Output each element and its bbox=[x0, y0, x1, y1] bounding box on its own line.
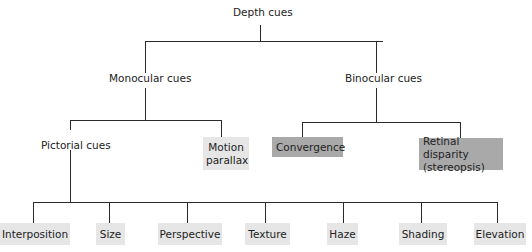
node-motion-parallax: Motion parallax bbox=[203, 137, 249, 170]
node-label: Texture bbox=[248, 228, 286, 241]
connector bbox=[302, 122, 303, 137]
connector bbox=[343, 202, 344, 223]
depth-cues-tree-diagram: Depth cues Monocular cues Binocular cues… bbox=[0, 0, 532, 252]
node-label: Perspective bbox=[160, 228, 221, 241]
node-retinal-disparity: Retinal disparity (stereopsis) bbox=[419, 138, 503, 170]
connector bbox=[70, 120, 71, 130]
connector bbox=[302, 122, 460, 123]
node-texture: Texture bbox=[245, 223, 290, 245]
node-haze: Haze bbox=[327, 223, 358, 245]
connector bbox=[70, 150, 71, 202]
node-label: Size bbox=[100, 228, 122, 241]
node-label: Haze bbox=[329, 228, 355, 241]
connector bbox=[70, 120, 222, 121]
node-pictorial-cues: Pictorial cues bbox=[41, 139, 111, 151]
node-interposition: Interposition bbox=[0, 223, 70, 245]
node-label: Shading bbox=[402, 228, 445, 241]
node-label: Motion parallax bbox=[206, 141, 246, 167]
connector bbox=[376, 41, 377, 73]
connector bbox=[421, 202, 422, 223]
node-monocular-cues: Monocular cues bbox=[109, 72, 191, 84]
connector bbox=[497, 202, 498, 223]
connector bbox=[145, 41, 383, 42]
node-convergence: Convergence bbox=[272, 137, 343, 157]
root-node-depth-cues: Depth cues bbox=[233, 6, 293, 18]
node-label: Retinal disparity (stereopsis) bbox=[423, 135, 503, 174]
node-label: Elevation bbox=[476, 228, 525, 241]
node-shading: Shading bbox=[399, 223, 447, 245]
node-elevation: Elevation bbox=[474, 223, 526, 245]
connector bbox=[376, 88, 377, 122]
connector bbox=[187, 202, 188, 223]
node-label: Interposition bbox=[2, 228, 68, 241]
connector bbox=[221, 120, 222, 137]
connector bbox=[260, 25, 261, 41]
connector bbox=[145, 88, 146, 120]
node-perspective: Perspective bbox=[158, 223, 222, 245]
node-label: Convergence bbox=[276, 141, 345, 154]
connector bbox=[109, 202, 110, 223]
connector bbox=[33, 202, 34, 223]
connector bbox=[265, 202, 266, 223]
node-binocular-cues: Binocular cues bbox=[345, 72, 422, 84]
node-size: Size bbox=[96, 223, 125, 245]
connector bbox=[145, 41, 146, 73]
